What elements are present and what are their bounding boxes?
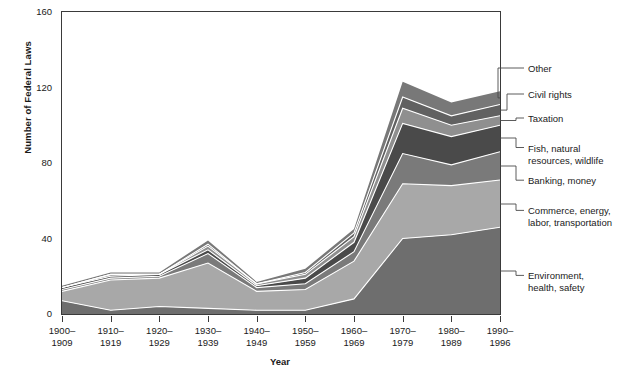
area-bands bbox=[62, 12, 500, 314]
x-tick-label-1960-1969: 1960–1969 bbox=[326, 325, 382, 348]
x-tick-label-line: 1979 bbox=[375, 337, 431, 349]
x-tick-mark-1910-1919 bbox=[111, 316, 112, 322]
legend-leader-line-3 bbox=[500, 136, 526, 150]
x-tick-label-1930-1939: 1930–1939 bbox=[180, 325, 236, 348]
legend-label-line: labor, transportation bbox=[528, 217, 612, 229]
x-tick-label-line: 1909 bbox=[34, 337, 90, 349]
legend-label-6[interactable]: Environment,health, safety bbox=[528, 270, 585, 293]
y-tick-label-160: 160 bbox=[4, 7, 52, 17]
legend-label-line: Fish, natural bbox=[528, 143, 604, 155]
x-tick-label-1900-1909: 1900–1909 bbox=[34, 325, 90, 348]
x-tick-label-1940-1949: 1940–1949 bbox=[229, 325, 285, 348]
x-tick-label-1990-1996: 1990–1996 bbox=[472, 325, 528, 348]
legend-leader-line-6 bbox=[500, 269, 526, 277]
legend-label-line: Taxation bbox=[528, 113, 563, 125]
stacked-area-chart: Number of Federal Laws 04080120160 1900–… bbox=[0, 0, 632, 377]
x-tick-mark-1950-1959 bbox=[305, 316, 306, 322]
x-tick-label-line: 1970– bbox=[375, 325, 431, 337]
x-tick-mark-1930-1939 bbox=[208, 316, 209, 322]
y-tick-label-120: 120 bbox=[4, 83, 52, 93]
legend-label-5[interactable]: Commerce, energy,labor, transportation bbox=[528, 205, 612, 228]
legend-label-3[interactable]: Fish, naturalresources, wildlife bbox=[528, 143, 604, 166]
legend-label-line: Other bbox=[528, 63, 552, 75]
y-tick-label-40: 40 bbox=[4, 234, 52, 244]
x-tick-label-line: 1930– bbox=[180, 325, 236, 337]
legend-label-line: Environment, bbox=[528, 270, 585, 282]
x-tick-mark-1960-1969 bbox=[354, 316, 355, 322]
legend-leader-line-1 bbox=[500, 92, 526, 112]
legend-leader-line-5 bbox=[500, 202, 526, 212]
x-tick-label-line: 1969 bbox=[326, 337, 382, 349]
x-tick-label-1920-1929: 1920–1929 bbox=[131, 325, 187, 348]
x-tick-label-line: 1989 bbox=[423, 337, 479, 349]
x-tick-label-1950-1959: 1950–1959 bbox=[277, 325, 333, 348]
legend-label-0[interactable]: Other bbox=[528, 63, 552, 75]
x-tick-label-line: 1900– bbox=[34, 325, 90, 337]
x-tick-mark-1920-1929 bbox=[159, 316, 160, 322]
plot-area bbox=[61, 11, 501, 315]
x-tick-mark-1970-1979 bbox=[403, 316, 404, 322]
x-tick-label-1910-1919: 1910–1919 bbox=[83, 325, 139, 348]
y-tick-label-80: 80 bbox=[4, 158, 52, 168]
x-tick-label-line: 1960– bbox=[326, 325, 382, 337]
x-tick-label-line: 1950– bbox=[277, 325, 333, 337]
legend-label-line: Banking, money bbox=[528, 175, 596, 187]
legend-label-line: Civil rights bbox=[528, 89, 572, 101]
x-tick-label-line: 1919 bbox=[83, 337, 139, 349]
legend-label-line: health, safety bbox=[528, 282, 585, 294]
x-tick-mark-1980-1989 bbox=[451, 316, 452, 322]
x-tick-label-line: 1996 bbox=[472, 337, 528, 349]
x-tick-label-line: 1959 bbox=[277, 337, 333, 349]
legend-label-line: resources, wildlife bbox=[528, 155, 604, 167]
legend-label-4[interactable]: Banking, money bbox=[528, 175, 596, 187]
legend-leader-line-4 bbox=[500, 164, 526, 182]
x-axis-title: Year bbox=[60, 356, 500, 367]
y-axis-title: Number of Federal Laws bbox=[22, 13, 33, 183]
x-tick-label-line: 1980– bbox=[423, 325, 479, 337]
x-tick-mark-1900-1909 bbox=[62, 316, 63, 322]
x-tick-label-line: 1949 bbox=[229, 337, 285, 349]
legend-label-1[interactable]: Civil rights bbox=[528, 89, 572, 101]
x-tick-mark-1940-1949 bbox=[257, 316, 258, 322]
x-tick-label-line: 1920– bbox=[131, 325, 187, 337]
x-tick-label-line: 1910– bbox=[83, 325, 139, 337]
x-tick-label-line: 1990– bbox=[472, 325, 528, 337]
x-tick-label-line: 1940– bbox=[229, 325, 285, 337]
x-tick-label-line: 1939 bbox=[180, 337, 236, 349]
x-tick-label-line: 1929 bbox=[131, 337, 187, 349]
legend-label-2[interactable]: Taxation bbox=[528, 113, 563, 125]
legend-label-line: Commerce, energy, bbox=[528, 205, 612, 217]
x-tick-label-1980-1989: 1980–1989 bbox=[423, 325, 479, 348]
x-tick-mark-1990-1996 bbox=[500, 316, 501, 322]
x-tick-label-1970-1979: 1970–1979 bbox=[375, 325, 431, 348]
y-tick-label-0: 0 bbox=[4, 309, 52, 319]
legend-leader-line-2 bbox=[500, 116, 526, 123]
